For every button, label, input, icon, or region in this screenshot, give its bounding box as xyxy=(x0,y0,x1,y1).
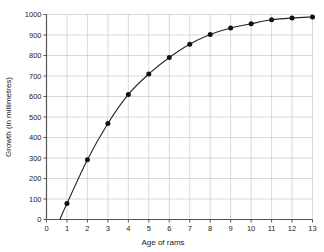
x-tick-label: 7 xyxy=(188,224,192,233)
chart-page: 012345678910111213 010020030040050060070… xyxy=(0,0,324,252)
x-tick-label: 11 xyxy=(268,224,276,233)
y-tick-label: 600 xyxy=(29,92,42,101)
data-point xyxy=(64,201,69,206)
x-tick-label: 8 xyxy=(208,224,212,233)
y-tick-label: 800 xyxy=(29,51,42,60)
x-tick-label: 12 xyxy=(288,224,296,233)
y-tick-label: 700 xyxy=(29,72,42,81)
y-tick-label: 0 xyxy=(37,215,41,224)
data-point xyxy=(167,55,172,60)
data-point xyxy=(187,42,192,47)
y-axis-title: Growth (in millimetres) xyxy=(4,77,13,157)
x-tick-label: 2 xyxy=(85,224,89,233)
x-axis-title: Age of rams xyxy=(141,238,184,247)
data-point xyxy=(290,15,295,20)
x-tick-label: 13 xyxy=(308,224,316,233)
y-tick-label: 900 xyxy=(29,31,42,40)
growth-line-chart: 012345678910111213 010020030040050060070… xyxy=(0,0,324,252)
y-tick-label: 400 xyxy=(29,133,42,142)
data-point xyxy=(269,17,274,22)
x-tick-label: 10 xyxy=(247,224,255,233)
data-point xyxy=(249,21,254,26)
y-tick-label: 1000 xyxy=(25,10,42,19)
x-tick-label: 5 xyxy=(147,224,151,233)
chart-background xyxy=(0,0,324,252)
x-tick-label: 6 xyxy=(167,224,171,233)
y-tick-label: 500 xyxy=(29,113,42,122)
data-point xyxy=(85,157,90,162)
data-point xyxy=(126,92,131,97)
data-point xyxy=(208,32,213,37)
y-tick-label: 200 xyxy=(29,174,42,183)
data-point xyxy=(105,121,110,126)
x-tick-label: 3 xyxy=(106,224,110,233)
x-tick-label: 9 xyxy=(229,224,233,233)
y-tick-label: 300 xyxy=(29,154,42,163)
x-tick-label: 0 xyxy=(44,224,48,233)
data-point xyxy=(310,14,315,19)
data-point xyxy=(228,26,233,31)
x-tick-label: 1 xyxy=(65,224,69,233)
data-point xyxy=(146,71,151,76)
x-tick-label: 4 xyxy=(126,224,130,233)
y-tick-label: 100 xyxy=(29,195,42,204)
